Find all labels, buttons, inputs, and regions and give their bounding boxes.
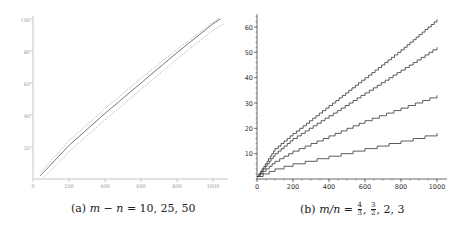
fraction-3-2: 32: [371, 202, 375, 217]
y-tick-label: 20: [245, 125, 253, 133]
caption-b-eq: =: [344, 203, 353, 216]
axes: 0200400600800100020406080100: [20, 16, 228, 189]
caption-b-label: (b): [300, 203, 316, 216]
x-tick-label: 800: [395, 183, 407, 191]
y-tick-label: 30: [245, 100, 253, 108]
chart-panel-a: 0200400600800100020406080100: [0, 0, 240, 200]
x-tick-label: 200: [287, 183, 299, 191]
y-tick-label: 10: [245, 150, 253, 158]
y-tick-label: 40: [24, 113, 30, 119]
x-tick-label: 0: [31, 183, 34, 189]
fraction-4-3: 43: [358, 202, 362, 217]
y-tick-label: 60: [24, 81, 30, 87]
caption-a: (a) m − n = 10, 25, 50: [71, 202, 196, 215]
series-line: [40, 17, 220, 172]
caption-a-label: (a): [71, 202, 86, 215]
x-tick-label: 800: [172, 183, 182, 189]
series-line: [44, 24, 224, 178]
series-line: [257, 19, 437, 176]
series-line: [257, 133, 437, 176]
y-tick-label: 100: [20, 17, 30, 23]
x-tick-label: 1000: [207, 183, 220, 189]
y-tick-label: 50: [245, 49, 253, 57]
x-tick-label: 600: [359, 183, 371, 191]
y-tick-label: 20: [24, 145, 30, 151]
y-tick-label: 80: [24, 49, 30, 55]
caption-b-lhs: m/n: [319, 203, 340, 216]
caption-a-rhs: = 10, 25, 50: [127, 202, 196, 215]
series-line: [257, 95, 437, 176]
plot-a: 0200400600800100020406080100: [0, 0, 240, 200]
caption-a-lhs: m − n: [90, 202, 124, 215]
axes: 02004006008001000102030405060: [245, 14, 447, 191]
x-tick-label: 0: [255, 183, 259, 191]
caption-b-rest: , 2, 3: [377, 203, 405, 216]
x-tick-label: 200: [64, 183, 74, 189]
series-line: [40, 19, 220, 176]
plot-b: 02004006008001000102030405060: [240, 0, 469, 200]
x-tick-label: 400: [323, 183, 335, 191]
x-tick-label: 600: [136, 183, 146, 189]
y-tick-label: 40: [245, 74, 253, 82]
x-tick-label: 1000: [429, 183, 446, 191]
chart-panel-b: 02004006008001000102030405060: [240, 0, 469, 200]
caption-b: (b) m/n = 43, 32, 2, 3: [300, 202, 405, 217]
y-tick-label: 60: [245, 24, 253, 32]
x-tick-label: 400: [100, 183, 110, 189]
